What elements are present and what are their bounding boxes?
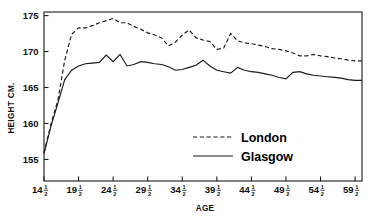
y-tick-label-165: 165 <box>23 82 40 93</box>
y-tick-label-170: 170 <box>23 46 39 57</box>
svg-text:1: 1 <box>217 184 220 190</box>
series-line-glasgow <box>44 54 362 153</box>
x-tick-label-24: 2412 <box>101 184 117 197</box>
x-tick-label-19: 1912 <box>66 184 82 197</box>
legend-label-london: London <box>241 131 287 145</box>
svg-text:1: 1 <box>148 184 151 190</box>
svg-text:2: 2 <box>182 191 185 197</box>
svg-text:2: 2 <box>321 191 324 197</box>
svg-text:34: 34 <box>170 184 181 195</box>
svg-text:1: 1 <box>321 184 324 190</box>
x-tick-label-14: 1412 <box>32 184 48 197</box>
x-axis-title: AGE <box>196 204 215 213</box>
x-tick-label-49: 4912 <box>274 184 290 197</box>
x-tick-label-39: 3912 <box>205 184 221 197</box>
svg-text:1: 1 <box>252 184 255 190</box>
y-tick-label-155: 155 <box>23 154 40 165</box>
svg-text:2: 2 <box>252 191 255 197</box>
svg-text:1: 1 <box>286 184 289 190</box>
y-tick-label-160: 160 <box>23 118 39 129</box>
svg-text:39: 39 <box>205 184 216 195</box>
x-axis-ticks <box>44 177 355 182</box>
svg-text:1: 1 <box>113 184 116 190</box>
chart-legend: LondonGlasgow <box>193 131 293 164</box>
y-tick-label-175: 175 <box>23 10 40 21</box>
svg-text:24: 24 <box>101 184 112 195</box>
series-line-london <box>44 18 362 152</box>
svg-text:1: 1 <box>182 184 185 190</box>
svg-text:14: 14 <box>32 184 43 195</box>
x-tick-label-59: 5912 <box>343 184 359 197</box>
svg-text:2: 2 <box>44 191 47 197</box>
svg-text:2: 2 <box>286 191 289 197</box>
y-axis-title: HEIGHT CM. <box>7 82 16 133</box>
y-axis-tick-labels: 155160165170175 <box>23 10 40 165</box>
svg-text:1: 1 <box>79 184 82 190</box>
svg-text:2: 2 <box>79 191 82 197</box>
x-tick-label-54: 5412 <box>308 184 324 197</box>
chart-canvas: 155160165170175 141219122412291234123912… <box>0 0 370 216</box>
svg-text:1: 1 <box>355 184 358 190</box>
svg-text:2: 2 <box>217 191 220 197</box>
svg-text:44: 44 <box>239 184 250 195</box>
svg-text:2: 2 <box>113 191 116 197</box>
data-series <box>44 18 362 153</box>
svg-text:54: 54 <box>308 184 319 195</box>
svg-text:1: 1 <box>44 184 47 190</box>
svg-text:2: 2 <box>355 191 358 197</box>
x-tick-label-29: 2912 <box>136 184 152 197</box>
legend-label-glasgow: Glasgow <box>241 150 293 164</box>
x-tick-label-34: 3412 <box>170 184 186 197</box>
x-axis-tick-labels: 1412191224122912341239124412491254125912 <box>32 184 359 197</box>
svg-text:2: 2 <box>148 191 151 197</box>
height-by-age-chart: 155160165170175 141219122412291234123912… <box>0 0 370 216</box>
svg-text:49: 49 <box>274 184 285 195</box>
svg-text:19: 19 <box>66 184 77 195</box>
x-tick-label-44: 4412 <box>239 184 255 197</box>
svg-text:29: 29 <box>136 184 147 195</box>
svg-text:59: 59 <box>343 184 354 195</box>
